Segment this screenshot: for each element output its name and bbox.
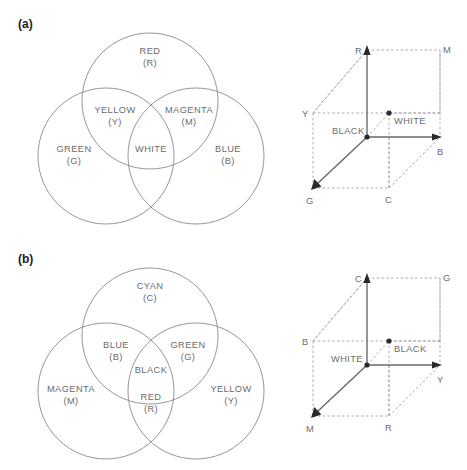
panel-a-label: (a) xyxy=(18,17,33,31)
center-point-white xyxy=(386,110,391,115)
cyan-label: CYAN (C) xyxy=(137,281,164,303)
yellow-label-b-line2: (Y) xyxy=(224,396,238,406)
green-label-line2: (G) xyxy=(67,156,82,166)
cyan-label-line1: CYAN xyxy=(137,281,164,291)
red-label-b-line1: RED xyxy=(141,392,162,402)
magenta-label-line2: (M) xyxy=(181,117,196,127)
axis-r-label: R xyxy=(355,46,362,56)
axis-m-label: M xyxy=(306,424,314,434)
blue-label: BLUE (B) xyxy=(215,144,241,166)
magenta-label: MAGENTA (M) xyxy=(165,105,213,127)
panel-b-venn: CYAN (C) BLUE (B) GREEN (G) BLACK RED (R… xyxy=(38,268,264,459)
vertex-r-label: R xyxy=(385,423,392,433)
axis-c-label: C xyxy=(355,274,362,284)
blue-label-b-line2: (B) xyxy=(109,352,123,362)
magenta-label-line1: MAGENTA xyxy=(165,105,213,115)
cube-b-black-label: BLACK xyxy=(394,344,427,354)
yellow-label-line1: YELLOW xyxy=(94,105,135,115)
cube-a-black-label: BLACK xyxy=(332,126,365,136)
center-point-black xyxy=(386,338,391,343)
green-label-b-line1: GREEN xyxy=(170,340,205,350)
white-label: WHITE xyxy=(135,144,167,154)
blue-label-line2: (B) xyxy=(221,156,235,166)
panel-a-cube: R B G M Y C BLACK WHITE xyxy=(302,45,451,206)
panel-a-venn: RED (R) YELLOW (Y) MAGENTA (M) WHITE GRE… xyxy=(38,33,264,224)
panel-b: (b) CYAN (C) BLUE (B) GREEN (G) BLACK RE… xyxy=(18,252,451,459)
red-label-line2: (R) xyxy=(143,58,157,68)
panel-b-label: (b) xyxy=(18,252,33,266)
black-label-b: BLACK xyxy=(135,365,168,375)
origin-point-black xyxy=(364,134,369,139)
red-label-line1: RED xyxy=(140,46,161,56)
cyan-label-line2: (C) xyxy=(143,293,157,303)
figure-canvas: (a) RED (R) YELLOW (Y) MAGENTA (M) WHITE… xyxy=(0,0,467,470)
green-label: GREEN (G) xyxy=(56,144,91,166)
green-label-b-line2: (G) xyxy=(181,352,196,362)
origin-point-white xyxy=(364,362,369,367)
green-label-b: GREEN (G) xyxy=(170,340,205,362)
yellow-label: YELLOW (Y) xyxy=(94,105,135,127)
magenta-label-b-line2: (M) xyxy=(63,396,78,406)
yellow-label-line2: (Y) xyxy=(108,117,122,127)
panel-b-cube: C Y M G B R WHITE BLACK xyxy=(302,273,451,434)
magenta-label-b-line1: MAGENTA xyxy=(47,384,95,394)
axis-y-label: Y xyxy=(437,375,444,385)
panel-a: (a) RED (R) YELLOW (Y) MAGENTA (M) WHITE… xyxy=(18,17,451,224)
red-label: RED (R) xyxy=(140,46,161,68)
vertex-y-label: Y xyxy=(302,109,309,119)
cube-b-white-label: WHITE xyxy=(331,354,363,364)
yellow-label-b: YELLOW (Y) xyxy=(210,384,251,406)
green-label-line1: GREEN xyxy=(56,144,91,154)
yellow-label-b-line1: YELLOW xyxy=(210,384,251,394)
blue-label-b-line1: BLUE xyxy=(103,340,129,350)
axis-b-label: B xyxy=(437,147,444,157)
cube-a-white-label: WHITE xyxy=(394,116,426,126)
magenta-label-b: MAGENTA (M) xyxy=(47,384,95,406)
vertex-c-label: C xyxy=(385,195,392,205)
vertex-m-label: M xyxy=(443,45,451,55)
axis-g-line xyxy=(317,137,367,184)
vertex-b-label: B xyxy=(302,337,309,347)
red-label-b: RED (R) xyxy=(141,392,162,414)
vertex-g-label: G xyxy=(443,273,451,283)
red-label-b-line2: (R) xyxy=(144,404,158,414)
color-models-figure: (a) RED (R) YELLOW (Y) MAGENTA (M) WHITE… xyxy=(0,0,467,470)
axis-g-label: G xyxy=(306,196,314,206)
axis-m-line xyxy=(317,365,367,412)
blue-label-line1: BLUE xyxy=(215,144,241,154)
blue-label-b: BLUE (B) xyxy=(103,340,129,362)
